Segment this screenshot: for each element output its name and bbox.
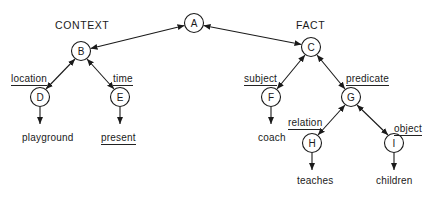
node-i-label: I: [393, 138, 396, 149]
edge-label-object: object: [394, 123, 422, 136]
node-g-label: G: [347, 92, 355, 103]
node-c-label: C: [307, 42, 314, 53]
edge-label-time: time: [113, 73, 133, 86]
edge-label-subject: subject: [244, 73, 277, 86]
edge-label-location: location: [11, 73, 47, 86]
node-d-label: D: [36, 92, 43, 103]
edge-label-predicate: predicate: [346, 73, 389, 86]
edge-g-i: [357, 105, 388, 135]
value-coach: coach: [258, 132, 286, 143]
fact-header: FACT: [296, 20, 325, 31]
node-e-label: E: [117, 92, 124, 103]
edge-c-f: [277, 55, 305, 89]
edge-b-d: [46, 59, 75, 89]
edge-label-relation: relation: [288, 117, 322, 130]
value-present: present: [101, 132, 136, 145]
node-h-label: H: [308, 138, 315, 149]
edge-c-g: [317, 55, 345, 89]
value-teaches: teaches: [297, 175, 333, 186]
edge-b-e: [87, 59, 114, 89]
node-a-label: A: [191, 18, 198, 29]
context-header: CONTEXT: [55, 20, 109, 31]
value-playground: playground: [22, 132, 73, 143]
node-f-label: F: [268, 92, 274, 103]
value-children: children: [376, 175, 413, 186]
edge-a-c: [204, 26, 302, 45]
node-b-label: B: [78, 46, 85, 57]
